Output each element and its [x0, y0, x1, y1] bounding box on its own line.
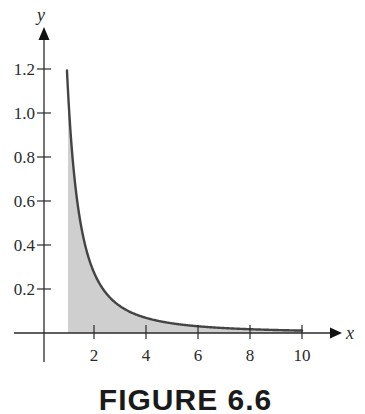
x-tick-label: 2 — [90, 346, 99, 365]
ticks: 2468100.20.40.60.81.01.2 — [14, 60, 311, 365]
y-tick-label: 1.2 — [14, 60, 35, 79]
x-tick-label: 10 — [294, 346, 311, 365]
figure-caption: FIGURE 6.6 — [0, 383, 365, 414]
y-tick-label: 0.4 — [14, 236, 36, 255]
y-tick-label: 0.2 — [14, 280, 35, 299]
y-axis-arrow-icon — [39, 27, 50, 40]
axes — [14, 27, 342, 362]
x-axis-label: x — [345, 323, 354, 343]
x-tick-label: 4 — [142, 346, 151, 365]
y-tick-label: 0.6 — [14, 192, 35, 211]
y-tick-label: 0.8 — [14, 148, 35, 167]
x-axis-arrow-icon — [330, 328, 342, 339]
shaded-region — [68, 91, 302, 333]
shaded-area — [68, 91, 302, 333]
x-tick-label: 6 — [194, 346, 203, 365]
y-axis-label: y — [35, 5, 45, 25]
y-tick-label: 1.0 — [14, 104, 35, 123]
x-tick-label: 8 — [246, 346, 255, 365]
